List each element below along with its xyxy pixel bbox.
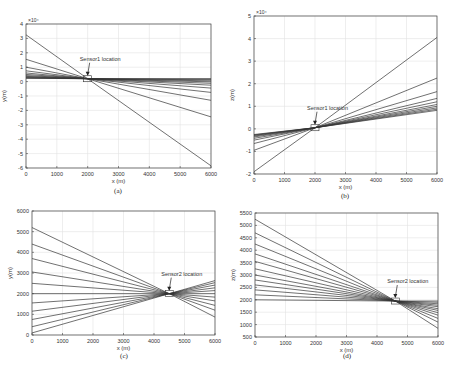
- y-tick-label: 0: [20, 79, 23, 85]
- y-tick-label: 5500: [240, 210, 252, 216]
- y-axis-label: z(m): [230, 269, 236, 281]
- y-tick-label: 3: [248, 58, 251, 64]
- x-axis-label: x (m): [112, 178, 126, 184]
- y-axis-label: y(m): [7, 267, 13, 279]
- x-tick-label: 2000: [309, 177, 321, 183]
- chart-d-plot: 0100020003000400050006000500100015002000…: [226, 200, 455, 360]
- y-tick-label: -2: [246, 171, 251, 177]
- annotation-label: Sensor2 location: [161, 271, 202, 277]
- y-tick-label: 2000: [17, 291, 29, 297]
- annotation-label: Sensor1 location: [80, 56, 121, 62]
- caption-d: (d): [327, 352, 367, 360]
- chart-c-plot: 0100020003000400050006000010002000300040…: [0, 200, 228, 360]
- y-tick-label: -2: [18, 107, 23, 113]
- y-tick-label: -1: [18, 93, 23, 99]
- y-tick-label: -4: [18, 136, 23, 142]
- y-tick-label: 4: [20, 21, 23, 27]
- y-tick-label: 5: [248, 13, 251, 19]
- y-axis-label: z(m): [229, 89, 235, 101]
- y-tick-label: 2500: [240, 284, 252, 290]
- annotation-label: Sensor1 location: [307, 105, 348, 111]
- x-tick-label: 6000: [431, 177, 443, 183]
- y-tick-label: 1500: [240, 309, 252, 315]
- y-tick-label: 2: [248, 81, 251, 87]
- x-tick-label: 5000: [178, 338, 190, 344]
- y-tick-label: 2: [20, 50, 23, 56]
- x-tick-label: 3000: [339, 177, 351, 183]
- y-tick-label: 3000: [17, 270, 29, 276]
- x-axis-label: x (m): [117, 345, 131, 351]
- y-tick-label: -5: [18, 151, 23, 157]
- x-axis-label: x (m): [339, 184, 353, 190]
- y-tick-label: 3: [20, 35, 23, 41]
- y-tick-label: 5000: [17, 229, 29, 235]
- x-tick-label: 0: [253, 340, 256, 346]
- x-tick-label: 5000: [400, 177, 412, 183]
- x-tick-label: 1000: [279, 340, 291, 346]
- y-tick-label: -1: [246, 148, 251, 154]
- y-tick-label: 3000: [240, 272, 252, 278]
- chart-a-plot: 0100020003000400050006000-6-5-4-3-2-1012…: [0, 0, 228, 195]
- y-axis-label: y(m): [1, 90, 7, 102]
- x-tick-label: 4000: [143, 171, 155, 177]
- y-tick-label: 6000: [17, 208, 29, 214]
- y-tick-label: 4000: [17, 249, 29, 255]
- caption-a: (a): [98, 187, 138, 195]
- y-tick-label: 1000: [17, 311, 29, 317]
- annotation-label: Sensor2 location: [387, 278, 428, 284]
- x-tick-label: 0: [30, 338, 33, 344]
- y-tick-label: 1: [20, 64, 23, 70]
- chart-b-plot: 0100020003000400050006000-2-1012345x (m)…: [226, 0, 455, 200]
- axis-exponent: ×10⁴: [28, 17, 39, 23]
- chart-b: 0100020003000400050006000-2-1012345x (m)…: [226, 0, 455, 204]
- y-tick-label: 4500: [240, 235, 252, 241]
- x-tick-label: 4000: [148, 338, 160, 344]
- y-tick-label: 2000: [240, 297, 252, 303]
- y-tick-label: 5000: [240, 222, 252, 228]
- y-tick-label: 1: [248, 103, 251, 109]
- x-tick-label: 6000: [205, 171, 217, 177]
- x-tick-label: 3000: [340, 340, 352, 346]
- chart-c: 0100020003000400050006000010002000300040…: [0, 200, 228, 364]
- y-tick-label: 1000: [240, 322, 252, 328]
- y-tick-label: 3500: [240, 260, 252, 266]
- y-tick-label: -3: [18, 122, 23, 128]
- x-tick-label: 4000: [370, 177, 382, 183]
- y-tick-label: 4000: [240, 247, 252, 253]
- caption-b: (b): [325, 192, 365, 200]
- x-tick-label: 2000: [87, 338, 99, 344]
- x-tick-label: 6000: [432, 340, 444, 346]
- y-tick-label: 0: [248, 126, 251, 132]
- x-tick-label: 4000: [371, 340, 383, 346]
- x-tick-label: 1000: [56, 338, 68, 344]
- chart-a: 0100020003000400050006000-6-5-4-3-2-1012…: [0, 0, 228, 199]
- x-tick-label: 6000: [209, 338, 221, 344]
- x-tick-label: 3000: [112, 171, 124, 177]
- y-tick-label: 0: [26, 332, 29, 338]
- y-tick-label: 4: [248, 36, 251, 42]
- x-tick-label: 5000: [174, 171, 186, 177]
- y-tick-label: 500: [243, 334, 252, 340]
- caption-c: (c): [104, 352, 144, 360]
- x-tick-label: 5000: [401, 340, 413, 346]
- chart-d: 0100020003000400050006000500100015002000…: [226, 200, 455, 364]
- y-tick-label: -6: [18, 165, 23, 171]
- x-tick-label: 0: [252, 177, 255, 183]
- x-tick-label: 1000: [278, 177, 290, 183]
- axis-exponent: ×10⁴: [256, 9, 267, 15]
- x-tick-label: 2000: [310, 340, 322, 346]
- x-tick-label: 1000: [51, 171, 63, 177]
- x-tick-label: 0: [24, 171, 27, 177]
- x-tick-label: 2000: [82, 171, 94, 177]
- x-tick-label: 3000: [117, 338, 129, 344]
